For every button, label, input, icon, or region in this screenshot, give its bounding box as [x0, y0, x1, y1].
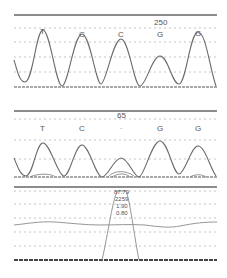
top-trace [14, 30, 216, 86]
metric-3: 1.90 [116, 203, 128, 209]
bottom-quality-panel: 87.79 2259 1.90 0.80 [14, 187, 217, 260]
bottom-signal-line [14, 222, 217, 227]
metric-2: 2259 [115, 196, 129, 202]
middle-base-5: G [195, 124, 201, 133]
middle-position-label: 65 [117, 111, 126, 120]
middle-base-3: · [120, 125, 122, 132]
metric-4: 0.80 [116, 210, 128, 216]
top-base-5: G [195, 29, 201, 38]
top-position-label: 250 [154, 18, 168, 27]
middle-base-2: C [79, 124, 85, 133]
middle-base-1: T [40, 124, 45, 133]
top-chromatogram-panel: 250 T C C G G [14, 15, 217, 87]
middle-base-4: G [157, 124, 163, 133]
top-base-1: T [40, 27, 45, 36]
middle-chromatogram-panel: 65 T C · G G [14, 111, 217, 177]
top-base-3: C [118, 30, 124, 39]
top-base-4: G [157, 30, 163, 39]
top-base-2: C [79, 30, 85, 39]
chromatogram-view: 250 T C C G G 65 T C · G G [0, 0, 227, 278]
metric-1: 87.79 [114, 189, 130, 195]
